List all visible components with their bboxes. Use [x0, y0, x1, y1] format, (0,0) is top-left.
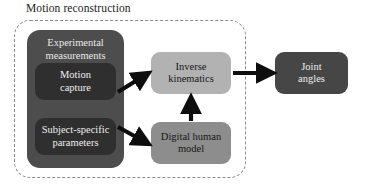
- node-joint-angles: Joint angles: [275, 52, 348, 94]
- node-digital-human-model: Digital human model: [151, 122, 231, 164]
- motion-reconstruction-diagram: Motion reconstruction Experimental measu…: [0, 0, 368, 193]
- motion-reconstruction-group-title: Motion reconstruction: [26, 2, 131, 14]
- node-experimental-measurements-label: Experimental measurements: [27, 37, 124, 62]
- node-subject-specific-parameters: Subject-specific parameters: [35, 118, 116, 155]
- node-motion-capture: Motion capture: [35, 63, 116, 100]
- node-inverse-kinematics: Inverse kinematics: [151, 52, 231, 94]
